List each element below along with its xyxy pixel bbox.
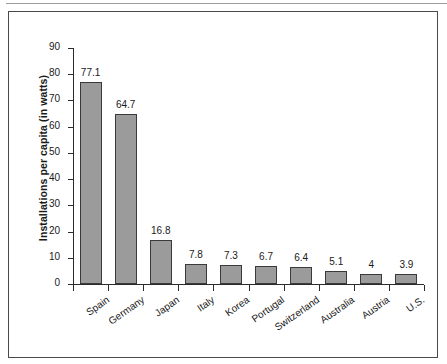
x-axis-tick <box>178 285 179 291</box>
x-axis-tick <box>284 285 285 291</box>
bar-value-label: 6.7 <box>246 251 286 262</box>
bar <box>185 264 207 284</box>
bar-value-label: 16.8 <box>141 225 181 236</box>
bar-value-label: 4 <box>351 259 391 270</box>
y-axis-tick-label: 80 <box>49 67 60 78</box>
y-axis-line <box>73 48 74 285</box>
bar <box>220 265 242 284</box>
bar <box>360 274 382 284</box>
y-axis-tick-label: 70 <box>49 93 60 104</box>
bar <box>290 267 312 284</box>
x-axis-tick <box>143 285 144 291</box>
x-axis-tick <box>213 285 214 291</box>
bar <box>325 271 347 284</box>
bar <box>395 274 417 284</box>
y-axis-tick: 10 <box>68 258 73 259</box>
y-axis-tick: 70 <box>68 100 73 101</box>
y-axis-tick-label: 10 <box>49 251 60 262</box>
y-axis-tick: 20 <box>68 232 73 233</box>
y-axis-tick-label: 40 <box>49 172 60 183</box>
y-axis-tick: 50 <box>68 153 73 154</box>
x-axis-tick <box>389 285 390 291</box>
chart-page: Installations per capita (in watts) 0102… <box>0 0 447 364</box>
bar-value-label: 3.9 <box>386 259 426 270</box>
x-axis-tick <box>108 285 109 291</box>
bar <box>255 266 277 284</box>
x-axis-tick <box>319 285 320 291</box>
plot-area: 0102030405060708090 77.164.716.87.87.36.… <box>73 42 425 290</box>
y-axis-tick: 60 <box>68 127 73 128</box>
bar-value-label: 7.3 <box>211 250 251 261</box>
y-axis-title: Installations per capita (in watts) <box>37 58 49 258</box>
x-axis-tick <box>424 285 425 291</box>
bar-value-label: 7.8 <box>176 249 216 260</box>
y-axis-tick: 90 <box>68 48 73 49</box>
y-axis-tick-label: 50 <box>49 146 60 157</box>
bar <box>80 82 102 284</box>
y-axis-tick: 30 <box>68 205 73 206</box>
bar-value-label: 64.7 <box>106 99 146 110</box>
x-axis-tick <box>249 285 250 291</box>
bar-value-label: 6.4 <box>281 252 321 263</box>
y-axis-tick-label: 20 <box>49 225 60 236</box>
y-axis-tick-label: 0 <box>54 277 60 288</box>
bar <box>150 240 172 284</box>
bar <box>115 114 137 284</box>
chart-frame: Installations per capita (in watts) 0102… <box>8 11 438 358</box>
x-axis-tick <box>354 285 355 291</box>
y-axis-tick: 40 <box>68 179 73 180</box>
x-axis-tick <box>73 285 74 291</box>
bar-value-label: 5.1 <box>316 256 356 267</box>
y-axis-tick-label: 30 <box>49 198 60 209</box>
y-axis-tick-label: 90 <box>49 41 60 52</box>
page-top-rule <box>6 3 447 4</box>
bar-value-label: 77.1 <box>71 67 111 78</box>
y-axis-tick-label: 60 <box>49 120 60 131</box>
